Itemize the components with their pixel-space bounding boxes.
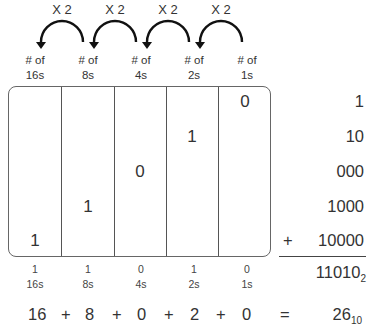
header-place: 16s — [15, 68, 55, 83]
column-header-1s: # of 1s — [227, 53, 267, 83]
plus-sign: + — [283, 231, 293, 250]
header-line: # of — [121, 53, 161, 68]
digit-16s: 1 — [20, 231, 50, 251]
bottom-label-4s: 0 4s — [121, 262, 161, 292]
multiplier-label: X 2 — [95, 2, 135, 17]
column-divider — [166, 87, 167, 256]
label-digit: 0 — [227, 262, 267, 277]
binary-result-value: 11010 — [316, 263, 361, 281]
term-16: 16 — [28, 305, 46, 324]
addend-10000: 10000 — [318, 231, 364, 250]
decimal-result-base: 10 — [351, 315, 362, 326]
plus-operator: + — [112, 305, 122, 324]
header-place: 2s — [174, 68, 214, 83]
header-line: # of — [68, 53, 108, 68]
addend-1: 1 — [355, 92, 364, 111]
binary-result-base: 2 — [360, 273, 366, 284]
binary-result: 110102 — [316, 263, 366, 284]
bottom-label-2s: 1 2s — [174, 262, 214, 292]
column-header-2s: # of 2s — [174, 53, 214, 83]
header-place: 4s — [121, 68, 161, 83]
column-divider — [61, 87, 62, 256]
label-place: 1s — [227, 277, 267, 292]
label-digit: 1 — [174, 262, 214, 277]
multiplier-label: X 2 — [42, 2, 82, 17]
header-place: 1s — [227, 68, 267, 83]
bottom-label-16s: 1 16s — [15, 262, 55, 292]
bottom-label-8s: 1 8s — [68, 262, 108, 292]
column-header-8s: # of 8s — [68, 53, 108, 83]
equals-sign: = — [280, 305, 290, 324]
plus-operator: + — [164, 305, 174, 324]
header-line: # of — [227, 53, 267, 68]
addend-000: 000 — [336, 162, 364, 181]
header-line: # of — [15, 53, 55, 68]
digit-1s: 0 — [230, 92, 260, 112]
column-divider — [114, 87, 115, 256]
label-digit: 1 — [15, 262, 55, 277]
term-2: 2 — [190, 305, 199, 324]
header-place: 8s — [68, 68, 108, 83]
term-0: 0 — [137, 305, 146, 324]
multiplier-label: X 2 — [201, 2, 241, 17]
digit-8s: 1 — [73, 197, 103, 217]
sum-line — [279, 256, 366, 257]
multiplier-label: X 2 — [148, 2, 188, 17]
label-place: 4s — [121, 277, 161, 292]
digit-2s: 1 — [177, 127, 207, 147]
label-place: 16s — [15, 277, 55, 292]
plus-operator: + — [61, 305, 71, 324]
plus-operator: + — [216, 305, 226, 324]
label-place: 2s — [174, 277, 214, 292]
addend-1000: 1000 — [327, 197, 364, 216]
label-place: 8s — [68, 277, 108, 292]
column-header-16s: # of 16s — [15, 53, 55, 83]
decimal-result: 2610 — [333, 305, 362, 326]
term-8: 8 — [85, 305, 94, 324]
header-line: # of — [174, 53, 214, 68]
addend-10: 10 — [346, 127, 364, 146]
label-digit: 0 — [121, 262, 161, 277]
column-header-4s: # of 4s — [121, 53, 161, 83]
decimal-result-value: 26 — [333, 305, 351, 323]
column-divider — [218, 87, 219, 256]
bottom-label-1s: 0 1s — [227, 262, 267, 292]
term-0: 0 — [242, 305, 251, 324]
digit-4s: 0 — [125, 162, 155, 182]
label-digit: 1 — [68, 262, 108, 277]
